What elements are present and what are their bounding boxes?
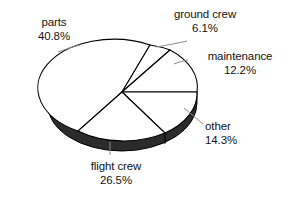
- pie-label-other-name: other: [205, 120, 275, 134]
- leader-line-ground-crew: [156, 41, 187, 47]
- pie-label-maintenance: maintenance 12.2%: [190, 50, 290, 77]
- pie-label-maintenance-name: maintenance: [190, 50, 290, 64]
- pie-label-ground-crew: ground crew 6.1%: [150, 8, 260, 35]
- pie-label-maintenance-value: 12.2%: [190, 64, 290, 78]
- pie-label-flight-crew-name: flight crew: [60, 160, 172, 174]
- pie-label-flight-crew: flight crew 26.5%: [60, 160, 172, 187]
- pie-label-ground-crew-name: ground crew: [150, 8, 260, 22]
- pie-label-ground-crew-value: 6.1%: [150, 22, 260, 36]
- pie-label-parts: parts 40.8%: [18, 16, 90, 43]
- pie-label-other: other 14.3%: [205, 120, 275, 147]
- pie-label-flight-crew-value: 26.5%: [60, 174, 172, 188]
- pie-label-parts-name: parts: [18, 16, 90, 30]
- pie-label-other-value: 14.3%: [205, 134, 275, 148]
- pie-label-parts-value: 40.8%: [18, 30, 90, 44]
- pie-chart: parts 40.8% ground crew 6.1% maintenance…: [0, 0, 292, 200]
